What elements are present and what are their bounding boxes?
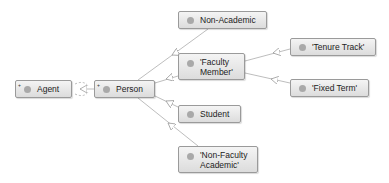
class-icon: [299, 85, 306, 92]
class-icon: [24, 86, 31, 93]
node-label: 'Non-Faculty Academic': [200, 150, 257, 170]
class-icon: [103, 86, 110, 93]
node-label: Agent: [37, 84, 59, 94]
edge-tenure-faculty: [245, 49, 290, 61]
expand-icon[interactable]: +: [97, 83, 101, 87]
class-hierarchy-diagram: + Agent + Person Non-Academic 'Faculty M…: [0, 0, 389, 183]
node-agent[interactable]: + Agent: [15, 80, 72, 98]
node-label: 'Faculty Member': [200, 57, 244, 77]
node-fixed-term[interactable]: 'Fixed Term': [290, 79, 369, 97]
node-label: Student: [200, 109, 229, 119]
node-tenure-track[interactable]: 'Tenure Track': [290, 38, 376, 56]
node-label: Person: [116, 84, 143, 94]
node-person[interactable]: + Person: [94, 80, 155, 98]
node-non-faculty-academic[interactable]: 'Non-Faculty Academic': [178, 146, 258, 173]
node-label: 'Fixed Term': [312, 83, 357, 93]
node-faculty-member[interactable]: 'Faculty Member': [178, 53, 245, 80]
class-icon: [187, 17, 194, 24]
class-icon: [187, 60, 194, 67]
node-label: 'Tenure Track': [312, 42, 364, 52]
edge-fixed-faculty: [245, 73, 290, 83]
node-non-academic[interactable]: Non-Academic: [178, 11, 267, 29]
class-icon: [187, 111, 194, 118]
class-icon: [187, 153, 194, 160]
expand-icon[interactable]: +: [18, 83, 22, 87]
node-label: Non-Academic: [200, 15, 256, 25]
class-icon: [299, 44, 306, 51]
node-student[interactable]: Student: [178, 105, 241, 123]
edge-faculty-person: [155, 76, 178, 83]
